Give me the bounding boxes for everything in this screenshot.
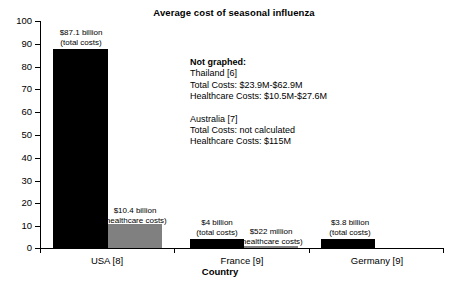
bar-label-usa-total: $87.1 billion (total costs) (50, 28, 112, 47)
y-tick-label-0: 0 (4, 243, 32, 253)
chart-title: Average cost of seasonal influenza (4, 7, 460, 18)
y-tick-label-50: 50 (4, 130, 32, 140)
y-tick-100 (35, 21, 40, 22)
x-tick-usa-france (174, 248, 175, 253)
bar-label-line1: $87.1 billion (60, 28, 103, 37)
bar-label-line1: $522 million (250, 227, 293, 236)
bar-label-france-healthcare: $522 million (healthcare costs) (228, 227, 314, 246)
y-axis-line (40, 21, 41, 249)
y-tick-label-20: 20 (4, 198, 32, 208)
x-tick-end (443, 248, 444, 253)
y-tick-40 (35, 158, 40, 159)
y-tick-label-30: 30 (4, 176, 32, 186)
y-tick-label-70: 70 (4, 84, 32, 94)
x-category-label-germany: Germany [9] (337, 255, 417, 266)
bar-label-line2: (total costs) (50, 38, 112, 48)
bar-label-line2: (total costs) (317, 228, 383, 238)
bar-label-germany-total: $3.8 billion (total costs) (317, 218, 383, 237)
bar-label-line2: (healthcare costs) (228, 237, 314, 247)
annotation-line-thailand-healthcare: Healthcare Costs: $10.5M-$27.6M (190, 91, 327, 102)
y-tick-label-60: 60 (4, 107, 32, 117)
y-tick-label-80: 80 (4, 62, 32, 72)
y-tick-label-100: 100 (4, 16, 32, 26)
annotation-line-thailand-total: Total Costs: $23.9M-$62.9M (190, 80, 327, 91)
bar-label-line1: $3.8 billion (331, 218, 369, 227)
y-tick-60 (35, 112, 40, 113)
y-tick-20 (35, 203, 40, 204)
annotation-line-australia: Australia [7] (190, 114, 327, 125)
bar-label-line1: $10.4 billion (114, 206, 157, 215)
y-tick-label-40: 40 (4, 153, 32, 163)
y-tick-50 (35, 135, 40, 136)
x-category-label-usa: USA [8] (67, 255, 147, 266)
y-tick-label-90: 90 (4, 39, 32, 49)
not-graphed-annotation: Not graphed: Thailand [6] Total Costs: $… (190, 57, 327, 148)
x-axis-title: Country (0, 266, 450, 277)
annotation-line-australia-total: Total Costs: not calculated (190, 125, 327, 136)
y-tick-30 (35, 181, 40, 182)
x-category-label-france: France [9] (202, 255, 282, 266)
annotation-spacer (190, 103, 327, 114)
y-tick-70 (35, 89, 40, 90)
annotation-line-australia-healthcare: Healthcare Costs: $115M (190, 136, 327, 147)
x-tick-france-germany (309, 248, 310, 253)
annotation-line-thailand: Thailand [6] (190, 68, 327, 79)
y-tick-90 (35, 44, 40, 45)
chart-figure: Average cost of seasonal influenza 100 9… (0, 0, 460, 290)
bar-label-usa-healthcare: $10.4 billion (healthcare costs) (92, 206, 178, 225)
y-tick-label-10: 10 (4, 221, 32, 231)
bar-label-line2: (healthcare costs) (92, 216, 178, 226)
annotation-heading: Not graphed: (190, 57, 327, 68)
bar-france-healthcare[interactable] (244, 246, 298, 248)
bar-usa-healthcare[interactable] (108, 224, 162, 248)
y-tick-10 (35, 226, 40, 227)
x-tick-start (40, 248, 41, 253)
x-axis-line (40, 248, 444, 249)
bar-germany-total[interactable] (321, 239, 375, 248)
bar-label-line1: $4 billion (201, 218, 233, 227)
y-tick-80 (35, 67, 40, 68)
